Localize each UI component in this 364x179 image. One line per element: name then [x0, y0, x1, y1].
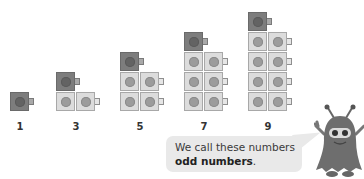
linking-cube-icon	[184, 52, 203, 71]
cube-connector-icon	[287, 98, 292, 105]
linking-cube-icon	[248, 52, 267, 71]
cube-connector-icon	[267, 18, 272, 25]
cube-connector-icon	[223, 78, 228, 85]
cube-dot-icon	[273, 57, 283, 67]
linking-cube-icon	[204, 52, 223, 71]
odd-linking-cube-icon	[10, 92, 29, 111]
cube-connector-icon	[75, 78, 80, 85]
cube-dot-icon	[189, 57, 199, 67]
bubble-line-1: We call these numbers	[175, 141, 295, 153]
linking-cube-icon	[268, 92, 287, 111]
cube-dot-icon	[145, 97, 155, 107]
bubble-period: .	[253, 155, 256, 167]
linking-cube-icon	[120, 72, 139, 91]
cube-dot-icon	[61, 97, 71, 107]
cube-dot-icon	[125, 77, 135, 87]
cube-dot-icon	[253, 17, 263, 27]
cube-dot-icon	[61, 77, 71, 87]
linking-cube-icon	[248, 92, 267, 111]
linking-cube-icon	[140, 72, 159, 91]
linking-cube-icon	[248, 32, 267, 51]
linking-cube-icon	[56, 92, 75, 111]
linking-cube-icon	[184, 72, 203, 91]
odd-linking-cube-icon	[120, 52, 139, 71]
linking-cube-icon	[204, 92, 223, 111]
column-label-5: 5	[120, 121, 160, 132]
linking-cube-icon	[76, 92, 95, 111]
cube-connector-icon	[223, 98, 228, 105]
cube-dot-icon	[81, 97, 91, 107]
column-label-7: 7	[184, 121, 224, 132]
cube-connector-icon	[95, 98, 100, 105]
cube-dot-icon	[125, 97, 135, 107]
speech-bubble: We call these numbers odd numbers.	[166, 136, 302, 172]
odd-linking-cube-icon	[56, 72, 75, 91]
column-label-9: 9	[248, 121, 288, 132]
cube-connector-icon	[159, 98, 164, 105]
cube-connector-icon	[29, 98, 34, 105]
odd-linking-cube-icon	[248, 12, 267, 31]
odd-linking-cube-icon	[184, 32, 203, 51]
cube-dot-icon	[209, 57, 219, 67]
cube-dot-icon	[145, 77, 155, 87]
cube-dot-icon	[253, 57, 263, 67]
cube-dot-icon	[253, 77, 263, 87]
cube-dot-icon	[209, 97, 219, 107]
cube-dot-icon	[253, 97, 263, 107]
cube-dot-icon	[189, 97, 199, 107]
cube-dot-icon	[189, 77, 199, 87]
cube-connector-icon	[287, 38, 292, 45]
linking-cube-icon	[248, 72, 267, 91]
cube-connector-icon	[203, 38, 208, 45]
cube-dot-icon	[273, 97, 283, 107]
cube-dot-icon	[273, 77, 283, 87]
monster-character-icon	[314, 104, 364, 179]
column-label-1: 1	[0, 121, 40, 132]
cube-dot-icon	[209, 77, 219, 87]
cube-connector-icon	[223, 58, 228, 65]
cube-connector-icon	[287, 58, 292, 65]
cube-connector-icon	[139, 58, 144, 65]
cube-connector-icon	[159, 78, 164, 85]
linking-cube-icon	[204, 72, 223, 91]
column-label-3: 3	[56, 121, 96, 132]
cube-dot-icon	[125, 57, 135, 67]
cube-dot-icon	[15, 97, 25, 107]
cube-connector-icon	[287, 78, 292, 85]
linking-cube-icon	[268, 52, 287, 71]
cube-dot-icon	[253, 37, 263, 47]
linking-cube-icon	[184, 92, 203, 111]
bubble-bold-term: odd numbers	[175, 155, 253, 167]
linking-cube-icon	[120, 92, 139, 111]
linking-cube-icon	[268, 72, 287, 91]
linking-cube-icon	[268, 32, 287, 51]
linking-cube-icon	[140, 92, 159, 111]
cube-dot-icon	[189, 37, 199, 47]
cube-dot-icon	[273, 37, 283, 47]
